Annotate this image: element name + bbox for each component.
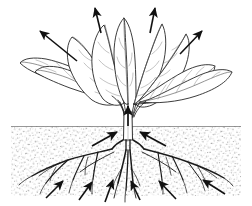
diagram-canvas xyxy=(0,0,252,206)
transpiration-arrow-top-right xyxy=(150,8,155,33)
transpiration-arrow-top-left xyxy=(95,8,101,33)
plant-diagram-figure xyxy=(0,0,252,206)
